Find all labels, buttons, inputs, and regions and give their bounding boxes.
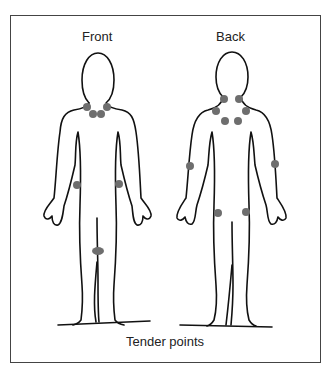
tender-point xyxy=(115,180,123,188)
tender-point xyxy=(89,110,97,118)
tender-point xyxy=(83,103,91,111)
tender-point xyxy=(242,107,250,115)
tender-point xyxy=(221,117,229,125)
tender-point xyxy=(271,160,279,168)
tender-point xyxy=(234,117,242,125)
back-tender-points xyxy=(186,95,279,217)
tender-point xyxy=(212,107,220,115)
tender-point xyxy=(103,103,111,111)
tender-point xyxy=(92,247,104,255)
tender-point xyxy=(235,95,243,103)
tender-point xyxy=(214,209,222,217)
tender-point xyxy=(186,162,194,170)
back-body-outline xyxy=(177,52,286,327)
tender-point xyxy=(220,95,228,103)
body-figures xyxy=(0,0,331,371)
tender-point xyxy=(242,208,250,216)
front-body-outline xyxy=(44,53,151,325)
caption: Tender points xyxy=(126,334,204,349)
tender-point xyxy=(97,110,105,118)
tender-point xyxy=(73,181,81,189)
